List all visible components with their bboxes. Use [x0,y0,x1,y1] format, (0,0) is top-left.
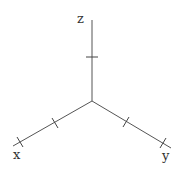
y-axis [92,101,171,148]
z-axis-label: z [77,11,84,26]
y-axis-label: y [161,148,170,163]
x-axis-tick-2 [17,137,23,147]
axes-diagram: z x y [0,0,186,181]
x-axis [13,101,92,146]
y-axis-tick-2 [160,138,166,148]
x-axis-label: x [13,147,21,162]
